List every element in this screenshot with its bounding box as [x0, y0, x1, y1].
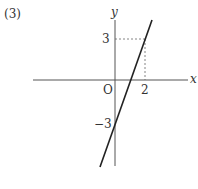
x-tick-label-2: 2	[141, 84, 149, 96]
x-axis-label: x	[190, 73, 197, 85]
y-tick-label-neg3: −3	[94, 118, 112, 130]
y-tick-label-3: 3	[102, 33, 110, 45]
y-axis-label: y	[111, 6, 118, 18]
graph	[0, 0, 198, 189]
origin-label: O	[103, 84, 113, 96]
